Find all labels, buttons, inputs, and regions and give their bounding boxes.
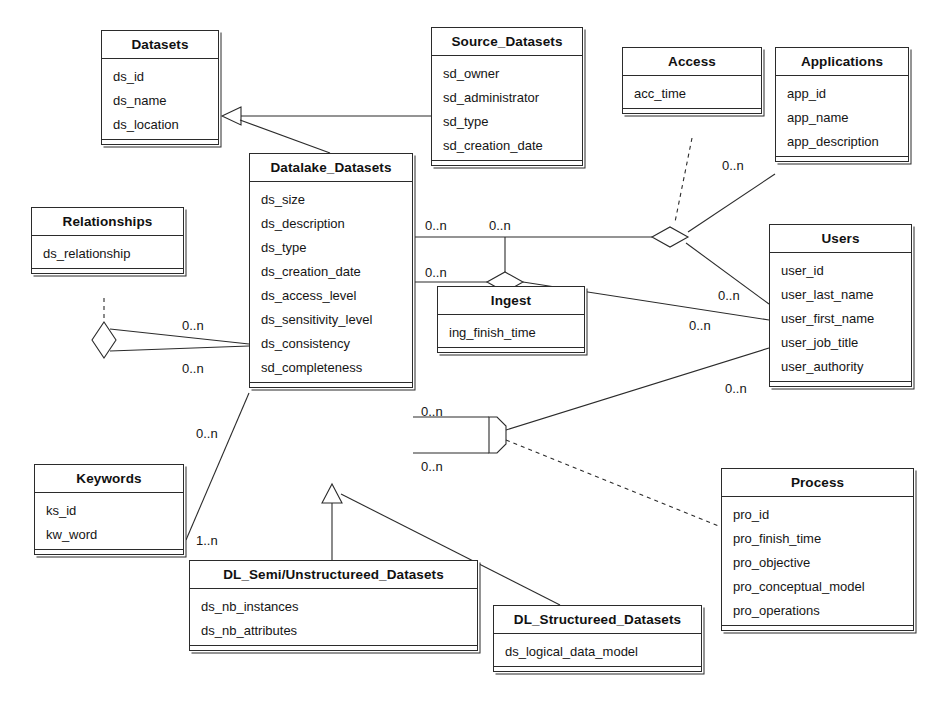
multiplicity-label: 0..n — [718, 288, 740, 303]
class-attributes-dl-structured-datasets: ds_logical_data_model — [494, 634, 701, 666]
attribute: sd_completeness — [250, 355, 412, 379]
class-title-dl-semi-unstructured-datasets: DL_Semi/Unstructureed_Datasets — [190, 561, 477, 589]
attribute: user_id — [770, 258, 911, 282]
multiplicity-label: 0..n — [722, 158, 744, 173]
class-title-keywords: Keywords — [35, 465, 183, 493]
class-footer — [494, 666, 701, 671]
attribute: app_id — [776, 81, 908, 105]
attribute: ds_logical_data_model — [494, 639, 701, 663]
class-box-process[interactable]: Process pro_id pro_finish_time pro_objec… — [721, 468, 914, 631]
attribute: user_job_title — [770, 330, 911, 354]
class-attributes-dl-semi-unstructured-datasets: ds_nb_instances ds_nb_attributes — [190, 589, 477, 645]
class-box-applications[interactable]: Applications app_id app_name app_descrip… — [775, 47, 909, 162]
attribute: ds_size — [250, 187, 412, 211]
attribute: user_last_name — [770, 282, 911, 306]
class-footer — [190, 645, 477, 650]
class-box-keywords[interactable]: Keywords ks_id kw_word — [34, 464, 184, 555]
class-title-applications: Applications — [776, 48, 908, 76]
class-attributes-ingest: ing_finish_time — [438, 315, 584, 347]
attribute: kw_word — [35, 522, 183, 546]
multiplicity-label: 0..n — [689, 318, 711, 333]
attribute: ds_location — [102, 112, 218, 136]
class-attributes-access: acc_time — [623, 76, 761, 108]
multiplicity-label: 0..n — [425, 218, 447, 233]
attribute: ds_nb_instances — [190, 594, 477, 618]
multiplicity-label: 0..n — [421, 404, 443, 419]
class-box-source-datasets[interactable]: Source_Datasets sd_owner sd_administrato… — [431, 27, 583, 166]
class-attributes-source-datasets: sd_owner sd_administrator sd_type sd_cre… — [432, 56, 582, 160]
class-title-users: Users — [770, 225, 911, 253]
multiplicity-label: 0..n — [182, 361, 204, 376]
multiplicity-label: 0..n — [196, 426, 218, 441]
class-footer — [770, 381, 911, 386]
class-box-ingest[interactable]: Ingest ing_finish_time — [437, 286, 585, 353]
class-box-dl-structured-datasets[interactable]: DL_Structureed_Datasets ds_logical_data_… — [493, 605, 702, 672]
attribute: pro_objective — [722, 550, 913, 574]
class-attributes-datasets: ds_id ds_name ds_location — [102, 59, 218, 139]
class-footer — [102, 139, 218, 144]
class-attributes-datalake-datasets: ds_size ds_description ds_type ds_creati… — [250, 182, 412, 382]
attribute: app_name — [776, 105, 908, 129]
class-box-users[interactable]: Users user_id user_last_name user_first_… — [769, 224, 912, 387]
class-title-datalake-datasets: Datalake_Datasets — [250, 154, 412, 182]
class-title-source-datasets: Source_Datasets — [432, 28, 582, 56]
class-footer — [623, 108, 761, 113]
class-footer — [32, 268, 183, 273]
class-box-access[interactable]: Access acc_time — [622, 47, 762, 114]
generalization-datalake-to-datasets — [240, 120, 330, 153]
attribute: pro_finish_time — [722, 526, 913, 550]
class-box-dl-semi-unstructured-datasets[interactable]: DL_Semi/Unstructureed_Datasets ds_nb_ins… — [189, 560, 478, 651]
attribute: user_authority — [770, 354, 911, 378]
attribute: sd_creation_date — [432, 133, 582, 157]
attribute: acc_time — [623, 81, 761, 105]
association-process-ternary — [413, 348, 769, 527]
attribute: ds_name — [102, 88, 218, 112]
generalization-source-to-datasets — [222, 107, 431, 125]
attribute: ds_description — [250, 211, 412, 235]
attribute: sd_owner — [432, 61, 582, 85]
attribute: app_description — [776, 129, 908, 153]
attribute: sd_administrator — [432, 85, 582, 109]
attribute: pro_operations — [722, 598, 913, 622]
class-title-process: Process — [722, 469, 913, 497]
uml-class-diagram: Datasets ds_id ds_name ds_location Sourc… — [0, 0, 941, 723]
class-title-datasets: Datasets — [102, 31, 218, 59]
attribute: ks_id — [35, 498, 183, 522]
generalization-semi-to-datalake — [322, 484, 342, 560]
multiplicity-label: 0..n — [725, 381, 747, 396]
class-attributes-keywords: ks_id kw_word — [35, 493, 183, 549]
attribute: sd_type — [432, 109, 582, 133]
association-relationships-reflexive — [92, 298, 249, 358]
attribute: ds_nb_attributes — [190, 618, 477, 642]
class-footer — [722, 625, 913, 630]
class-footer — [776, 156, 908, 161]
class-attributes-applications: app_id app_name app_description — [776, 76, 908, 156]
attribute: pro_conceptual_model — [722, 574, 913, 598]
class-attributes-process: pro_id pro_finish_time pro_objective pro… — [722, 497, 913, 625]
class-box-relationships[interactable]: Relationships ds_relationship — [31, 207, 184, 274]
class-attributes-users: user_id user_last_name user_first_name u… — [770, 253, 911, 381]
association-keywords — [186, 393, 249, 540]
attribute: ds_sensitivity_level — [250, 307, 412, 331]
class-title-dl-structured-datasets: DL_Structureed_Datasets — [494, 606, 701, 634]
class-title-access: Access — [623, 48, 761, 76]
attribute: ds_type — [250, 235, 412, 259]
class-box-datalake-datasets[interactable]: Datalake_Datasets ds_size ds_description… — [249, 153, 413, 388]
class-box-datasets[interactable]: Datasets ds_id ds_name ds_location — [101, 30, 219, 145]
attribute: ds_creation_date — [250, 259, 412, 283]
multiplicity-label: 0..n — [421, 459, 443, 474]
class-attributes-relationships: ds_relationship — [32, 236, 183, 268]
class-footer — [438, 347, 584, 352]
attribute: ing_finish_time — [438, 320, 584, 344]
attribute: user_first_name — [770, 306, 911, 330]
class-footer — [35, 549, 183, 554]
multiplicity-label: 0..n — [182, 318, 204, 333]
multiplicity-label: 0..n — [425, 265, 447, 280]
attribute: ds_relationship — [32, 241, 183, 265]
class-footer — [250, 382, 412, 387]
class-title-relationships: Relationships — [32, 208, 183, 236]
class-title-ingest: Ingest — [438, 287, 584, 315]
multiplicity-label: 0..n — [489, 218, 511, 233]
attribute: ds_access_level — [250, 283, 412, 307]
class-footer — [432, 160, 582, 165]
